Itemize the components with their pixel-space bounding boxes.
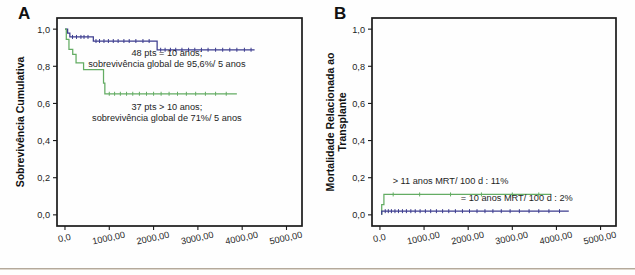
y-tick-label: 0,0 [352,210,365,220]
x-tick-label: 2000,00 [136,230,171,247]
x-tick-label: 2000,00 [450,230,485,247]
x-tick-label: 5000,00 [583,230,618,247]
panel-a: A 0,00,20,40,60,81,00,01000,002000,00300… [0,0,318,255]
panel-b-letter: B [334,4,346,24]
x-tick-label: 0,0 [57,232,72,244]
x-tick-label: 4000,00 [224,230,259,247]
y-tick-label: 0,6 [37,99,50,109]
annot-blue-line1: sobrevivência global de 95,6%/ 5 anos [88,59,246,69]
footer-rule-secondary [0,269,635,270]
annot-green-b-line0: > 11 anos MRT/ 100 d : 11% [393,176,509,186]
y-axis-title: Mortalidade Relacionada ao [324,53,336,192]
y-tick-label: 0,4 [352,136,365,146]
y-axis-title: Transplante [336,92,348,151]
annot-green-line1: sobrevivência global de 71%/ 5 anos [92,113,242,123]
panel-a-plot: 0,00,20,40,60,81,00,01000,002000,003000,… [0,0,318,255]
y-tick-label: 1,0 [352,25,365,35]
y-axis-title: Sobrevivência Cumulativa [14,56,26,187]
y-tick-label: 0,2 [37,173,50,183]
panel-a-letter: A [18,4,30,24]
x-tick-label: 0,0 [372,232,387,244]
y-tick-label: 0,6 [352,99,365,109]
panel-b-plot: 0,00,20,40,60,81,00,01000,002000,003000,… [318,0,635,255]
y-tick-label: 0,8 [37,62,50,72]
figure-container: A 0,00,20,40,60,81,00,01000,002000,00300… [0,0,635,275]
y-tick-label: 0,8 [352,62,365,72]
x-tick-label: 5000,00 [269,230,304,247]
y-tick-label: 1,0 [37,25,50,35]
curve--10-anos [382,211,569,215]
y-tick-label: 0,4 [37,136,50,146]
x-tick-label: 1000,00 [406,230,441,247]
x-tick-label: 1000,00 [91,230,126,247]
annot-blue-line0: 48 pts = 10 anos; [131,48,202,58]
x-tick-label: 3000,00 [180,230,215,247]
annot-green-line0: 37 pts > 10 anos; [131,102,202,112]
y-tick-label: 0,0 [37,210,50,220]
x-tick-label: 3000,00 [494,230,529,247]
x-tick-label: 4000,00 [539,230,574,247]
curve-48-pts-10-anos [65,29,255,50]
annot-blue-b-line0: = 10 anos MRT/ 100 d : 2% [461,193,573,203]
y-tick-label: 0,2 [352,173,365,183]
panel-b: B 0,00,20,40,60,81,00,01000,002000,00300… [318,0,635,255]
